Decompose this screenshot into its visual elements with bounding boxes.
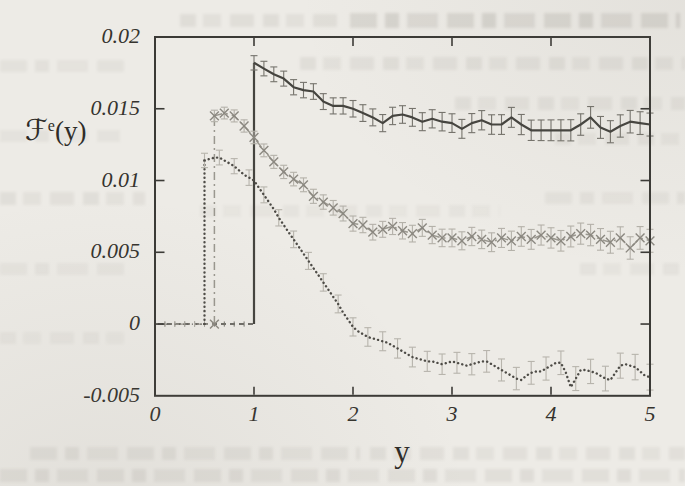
chart-canvas bbox=[0, 0, 685, 486]
scanned-figure: ℱe(y) y 0.020.0150.010.0050-0.005012345 bbox=[0, 0, 685, 486]
